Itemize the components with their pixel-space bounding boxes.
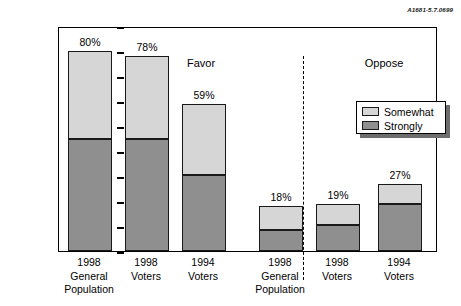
plot-area: Percentage 0102030405060708090 Favor Opp… (58, 27, 437, 252)
legend-swatch-somewhat (362, 107, 379, 116)
legend-label-strongly: Strongly (384, 120, 423, 132)
bar-segment-strongly[interactable] (259, 230, 303, 251)
bar-segment-strongly[interactable] (182, 175, 226, 251)
bar-segment-strongly[interactable] (125, 139, 169, 252)
legend-swatch-strongly (362, 121, 379, 130)
y-tick-line (117, 77, 124, 79)
group-title-favor: Favor (166, 57, 236, 69)
bar-segment-somewhat[interactable] (125, 56, 169, 139)
chart-figure: A1681-5.7.0699 Percentage 01020304050607… (0, 0, 461, 306)
bar-segment-strongly[interactable] (68, 139, 112, 252)
bar-segment-strongly[interactable] (378, 204, 422, 252)
bar-segment-somewhat[interactable] (68, 51, 112, 139)
stacked-bar[interactable] (125, 56, 169, 251)
x-label-line: Voters (160, 270, 246, 284)
x-axis-category-label: 1994Voters (356, 256, 442, 283)
x-label-line: Voters (356, 270, 442, 284)
bar-value-label: 27% (370, 169, 430, 181)
bar-value-label: 18% (251, 191, 311, 203)
y-tick-line (117, 27, 124, 29)
group-title-oppose: Oppose (349, 57, 419, 69)
legend-item-somewhat: Somewhat (362, 105, 445, 118)
stacked-bar[interactable] (378, 184, 422, 252)
stacked-bar[interactable] (68, 51, 112, 251)
bar-segment-strongly[interactable] (316, 225, 360, 251)
bar-segment-somewhat[interactable] (316, 204, 360, 225)
y-tick-line (117, 177, 124, 179)
x-label-line: Population (46, 283, 132, 297)
x-label-line: Population (237, 283, 323, 297)
legend-item-strongly: Strongly (362, 119, 445, 132)
bar-value-label: 80% (60, 36, 120, 48)
corner-reference-code: A1681-5.7.0699 (407, 6, 453, 13)
bar-value-label: 59% (174, 89, 234, 101)
bar-segment-somewhat[interactable] (259, 206, 303, 230)
y-tick-line (117, 202, 124, 204)
chart-legend: Somewhat Strongly (356, 101, 446, 134)
y-tick-line (117, 152, 124, 154)
x-axis-category-label: 1994Voters (160, 256, 246, 283)
y-tick-line (117, 127, 124, 129)
bar-segment-somewhat[interactable] (182, 104, 226, 175)
stacked-bar[interactable] (182, 104, 226, 252)
x-label-line: 1994 (356, 256, 442, 270)
stacked-bar[interactable] (316, 204, 360, 252)
y-tick-line (117, 102, 124, 104)
stacked-bar[interactable] (259, 206, 303, 251)
x-label-line: 1994 (160, 256, 246, 270)
y-tick-line (117, 227, 124, 229)
group-divider (303, 56, 304, 280)
bar-value-label: 19% (308, 189, 368, 201)
y-tick-line (117, 252, 124, 254)
bar-segment-somewhat[interactable] (378, 184, 422, 204)
legend-label-somewhat: Somewhat (384, 106, 434, 118)
bar-value-label: 78% (117, 41, 177, 53)
